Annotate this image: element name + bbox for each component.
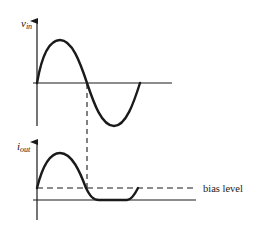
bias-level-label: bias level — [203, 183, 243, 194]
iout-axis-label: iout — [17, 140, 31, 154]
bias-waveform-diagram: vin iout bias level — [0, 0, 255, 232]
vin-plot: vin — [21, 17, 172, 126]
iout-plot: iout bias level — [17, 140, 243, 220]
vin-axis-label: vin — [21, 17, 32, 31]
